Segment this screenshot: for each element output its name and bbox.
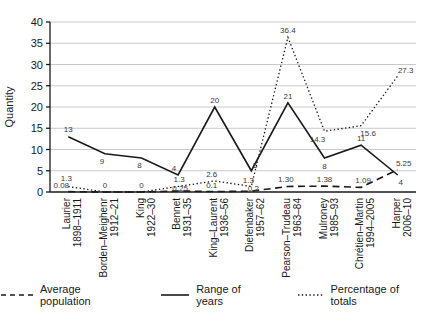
y-tick-label: 35: [31, 37, 43, 49]
data-label: 4: [398, 178, 403, 187]
data-label: 13: [64, 125, 73, 134]
data-label: 8: [322, 162, 327, 171]
x-tick-label: Borden–Meighenr1912–21: [98, 197, 120, 277]
data-label: 9: [100, 157, 105, 166]
data-label: 27.3: [398, 66, 414, 75]
x-tick-label: Bennet1931–35: [171, 198, 193, 237]
data-label: 4: [172, 164, 177, 173]
x-tick-label: Harper2006–10: [391, 197, 413, 237]
legend-item-range-of-years: Range of years: [160, 283, 270, 307]
y-tick-label: 40: [31, 16, 43, 28]
dashed-line-sample-icon: [0, 291, 34, 299]
chart-canvas: Quantity 05101520253035400.080.250.10.21…: [0, 0, 428, 282]
x-tick-label: King–Laurent1936–56: [208, 198, 230, 258]
solid-line-sample-icon: [160, 291, 190, 299]
data-label: 0.2: [248, 184, 260, 193]
chart-legend: Average population Range of years Percen…: [0, 282, 428, 308]
y-tick-label: 5: [37, 165, 43, 177]
x-tick-label: Diefenbaker1957–62: [244, 197, 266, 252]
data-label: 1.38: [317, 175, 333, 184]
series-line-dotted: [68, 37, 397, 192]
data-label: 20: [210, 96, 219, 105]
data-label: 0: [103, 181, 108, 190]
data-label: 1.3: [61, 174, 73, 183]
series-line-dashed: [68, 170, 397, 192]
legend-label: Average population: [40, 283, 134, 307]
legend-label: Range of years: [196, 283, 270, 307]
data-label: 1.30: [278, 175, 294, 184]
data-label: 0: [139, 181, 144, 190]
legend-item-average-population: Average population: [0, 283, 134, 307]
data-label: 1.3: [174, 175, 186, 184]
y-tick-label: 30: [31, 59, 43, 71]
data-label: 36.4: [280, 26, 296, 35]
y-tick-label: 0: [37, 186, 43, 198]
y-tick-label: 20: [31, 101, 43, 113]
dotted-line-sample-icon: [297, 291, 325, 299]
chart-figure: Quantity 05101520253035400.080.250.10.21…: [0, 0, 428, 312]
x-tick-label: King1922–30: [135, 198, 157, 237]
data-label: 1.09: [355, 176, 371, 185]
data-label: 8: [137, 161, 142, 170]
y-tick-label: 25: [31, 80, 43, 92]
data-label: 14.3: [310, 135, 326, 144]
legend-label: Percentage of totals: [330, 283, 428, 307]
data-label: 21: [283, 92, 292, 101]
data-label: 1.3: [243, 176, 255, 185]
data-label: 5.25: [396, 159, 412, 168]
plot-area: 05101520253035400.080.250.10.21.301.381.…: [31, 16, 416, 278]
x-tick-label: Chrétien–Martin1994–2005: [354, 198, 376, 270]
series-line-solid: [68, 103, 397, 175]
data-label: 2.6: [206, 170, 218, 179]
legend-item-percentage-of-totals: Percentage of totals: [297, 283, 428, 307]
data-label: 15.6: [360, 129, 376, 138]
y-tick-label: 10: [31, 144, 43, 156]
x-tick-label: Mulroney1985–93: [318, 198, 340, 240]
y-axis-title: Quantity: [3, 86, 15, 127]
x-tick-label: Pearson–Trudeau1963–84: [281, 198, 303, 278]
x-tick-label: Laurier1898–1911: [61, 197, 83, 247]
y-tick-label: 15: [31, 122, 43, 134]
